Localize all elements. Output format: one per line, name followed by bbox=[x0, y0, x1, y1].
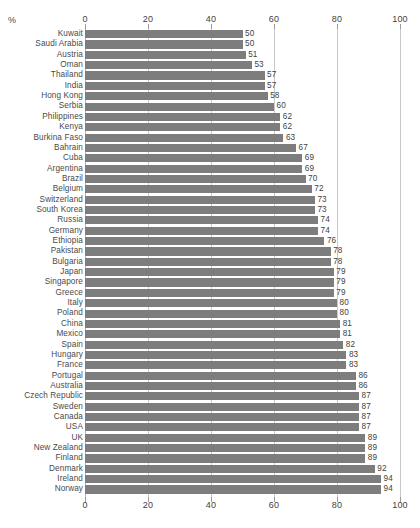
bar bbox=[85, 123, 280, 131]
bar-category-label: Ethiopia bbox=[53, 236, 83, 246]
bar-value-label: 89 bbox=[368, 453, 377, 463]
bar bbox=[85, 310, 337, 318]
bar-value-label: 83 bbox=[349, 360, 358, 370]
bar bbox=[85, 144, 296, 152]
bar bbox=[85, 82, 265, 90]
bar-category-label: South Korea bbox=[36, 205, 83, 215]
bar-value-label: 89 bbox=[368, 433, 377, 443]
x-axis-tick-label: 40 bbox=[206, 14, 216, 24]
bar bbox=[85, 330, 340, 338]
bar-category-label: Hungary bbox=[51, 350, 83, 360]
bar-value-label: 83 bbox=[349, 350, 358, 360]
bar-row: Greece79 bbox=[0, 288, 420, 298]
x-axis-tick-label: 40 bbox=[206, 500, 216, 510]
bar-value-label: 87 bbox=[362, 412, 371, 422]
bar bbox=[85, 351, 346, 359]
bar-row: Thailand57 bbox=[0, 70, 420, 80]
bar-row: Finland89 bbox=[0, 453, 420, 463]
bar-value-label: 70 bbox=[308, 174, 317, 184]
bar-value-label: 82 bbox=[346, 340, 355, 350]
bar bbox=[85, 92, 268, 100]
bar-row: Oman53 bbox=[0, 60, 420, 70]
bar bbox=[85, 154, 302, 162]
x-axis-tick-label: 100 bbox=[392, 14, 408, 24]
bar-value-label: 94 bbox=[384, 484, 393, 494]
bar-row: South Korea73 bbox=[0, 205, 420, 215]
x-axis-tick-label: 60 bbox=[269, 500, 279, 510]
bar bbox=[85, 206, 315, 214]
bar-value-label: 86 bbox=[358, 371, 367, 381]
bar bbox=[85, 341, 343, 349]
bar-category-label: Czech Republic bbox=[24, 391, 83, 401]
bar bbox=[85, 227, 318, 235]
bar-value-label: 74 bbox=[321, 226, 330, 236]
bar bbox=[85, 134, 283, 142]
x-axis-tick-label: 20 bbox=[143, 500, 153, 510]
bar-value-label: 58 bbox=[270, 91, 279, 101]
bar bbox=[85, 454, 365, 462]
bar-row: Hungary83 bbox=[0, 350, 420, 360]
bar bbox=[85, 247, 331, 255]
bar-category-label: Switzerland bbox=[40, 195, 83, 205]
bar bbox=[85, 434, 365, 442]
bar-category-label: Oman bbox=[60, 60, 83, 70]
bar-category-label: Australia bbox=[50, 381, 83, 391]
bar-category-label: Pakistan bbox=[51, 246, 83, 256]
bar-category-label: Kuwait bbox=[58, 29, 83, 39]
bar-row: Germany74 bbox=[0, 226, 420, 236]
bar-row: Serbia60 bbox=[0, 101, 420, 111]
bar-category-label: Mexico bbox=[56, 329, 83, 339]
bar-row: Australia86 bbox=[0, 381, 420, 391]
bar-row: Singapore79 bbox=[0, 277, 420, 287]
bar bbox=[85, 289, 334, 297]
bar-row: Ethiopia76 bbox=[0, 236, 420, 246]
bar bbox=[85, 175, 306, 183]
bar bbox=[85, 372, 356, 380]
bar-value-label: 79 bbox=[336, 288, 345, 298]
bar-row: Argentina69 bbox=[0, 164, 420, 174]
bar-category-label: Denmark bbox=[49, 464, 83, 474]
bar-value-label: 81 bbox=[343, 319, 352, 329]
bar-category-label: Singapore bbox=[45, 277, 83, 287]
bar-value-label: 87 bbox=[362, 391, 371, 401]
bar-category-label: Greece bbox=[56, 288, 83, 298]
bar-category-label: Ireland bbox=[57, 474, 83, 484]
bar-row: Bahrain67 bbox=[0, 143, 420, 153]
bar-category-label: New Zealand bbox=[34, 443, 83, 453]
bar-category-label: Kenya bbox=[59, 122, 83, 132]
bar-category-label: Argentina bbox=[47, 164, 83, 174]
bar-value-label: 81 bbox=[343, 329, 352, 339]
bar-value-label: 74 bbox=[321, 215, 330, 225]
x-axis-tick-label: 80 bbox=[332, 500, 342, 510]
bar-value-label: 60 bbox=[277, 101, 286, 111]
x-axis-tick-label: 100 bbox=[392, 500, 408, 510]
bar-value-label: 73 bbox=[317, 205, 326, 215]
bar-category-label: Russia bbox=[57, 215, 83, 225]
bar-category-label: Poland bbox=[57, 308, 83, 318]
bar bbox=[85, 237, 324, 245]
bar bbox=[85, 71, 265, 79]
bar-value-label: 69 bbox=[305, 164, 314, 174]
bar bbox=[85, 465, 375, 473]
bar-value-label: 72 bbox=[314, 184, 323, 194]
bar-category-label: Belgium bbox=[53, 184, 83, 194]
bar-value-label: 50 bbox=[245, 29, 254, 39]
bar-row: Pakistan78 bbox=[0, 246, 420, 256]
bar-category-label: Hong Kong bbox=[41, 91, 83, 101]
bar bbox=[85, 320, 340, 328]
bar-row: Belgium72 bbox=[0, 184, 420, 194]
bar-row: Czech Republic87 bbox=[0, 391, 420, 401]
bar-category-label: India bbox=[65, 81, 83, 91]
bar-value-label: 50 bbox=[245, 39, 254, 49]
bar-category-label: Brazil bbox=[62, 174, 83, 184]
bar-category-label: Austria bbox=[57, 50, 83, 60]
bar-category-label: Canada bbox=[54, 412, 83, 422]
bar bbox=[85, 278, 334, 286]
bar-row: Japan79 bbox=[0, 267, 420, 277]
bar-category-label: Japan bbox=[60, 267, 83, 277]
bar-value-label: 89 bbox=[368, 443, 377, 453]
bar bbox=[85, 258, 331, 266]
bar-row: Brazil70 bbox=[0, 174, 420, 184]
bar-row: Russia74 bbox=[0, 215, 420, 225]
bar-row: New Zealand89 bbox=[0, 443, 420, 453]
